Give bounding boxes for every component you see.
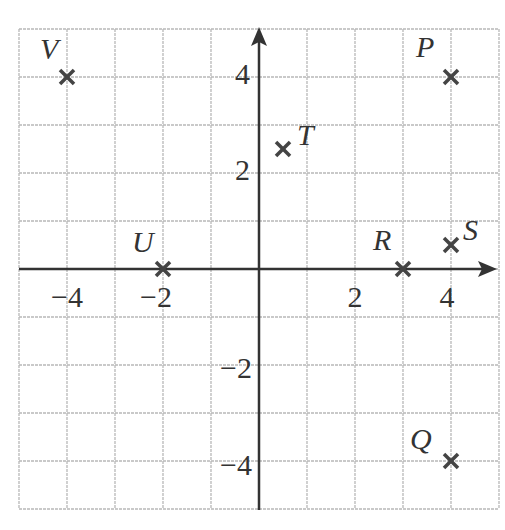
point-label-v: V bbox=[40, 32, 62, 65]
y-tick-label: −2 bbox=[220, 351, 252, 384]
point-label-t: T bbox=[297, 118, 316, 151]
x-tick-label: −4 bbox=[51, 280, 83, 313]
y-tick-label: 2 bbox=[235, 153, 250, 186]
point-label-q: Q bbox=[410, 422, 432, 455]
y-tick-label: −4 bbox=[220, 448, 252, 481]
x-tick-label: 4 bbox=[440, 280, 455, 313]
x-tick-label: −2 bbox=[140, 280, 172, 313]
y-tick-label: 4 bbox=[235, 57, 250, 90]
point-label-u: U bbox=[132, 225, 156, 258]
point-label-p: P bbox=[415, 30, 434, 63]
coordinate-plane: −4 −2 2 4 4 2 −2 −4 P Q R S T U V bbox=[0, 0, 505, 530]
x-marker-icon bbox=[276, 142, 290, 156]
point-label-r: R bbox=[372, 223, 391, 256]
x-tick-label: 2 bbox=[348, 280, 363, 313]
point-label-s: S bbox=[463, 213, 478, 246]
